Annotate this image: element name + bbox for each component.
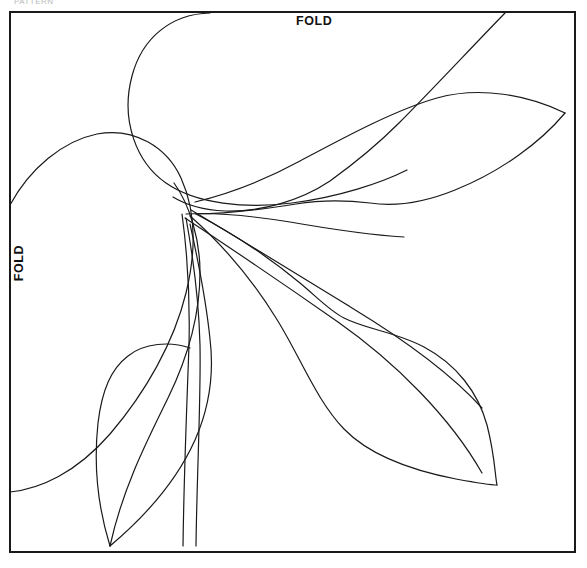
stem-inner-upper xyxy=(186,213,404,237)
pattern-drawing xyxy=(0,0,587,568)
stem-rib-outer xyxy=(182,214,189,546)
lower-right-leaf-lower xyxy=(190,216,497,485)
lower-right-leaf-upper xyxy=(196,214,497,485)
top-petal-outer-sweep xyxy=(173,13,505,211)
right-leaf-upper xyxy=(195,93,565,202)
right-leaf-lower xyxy=(196,113,565,214)
applique-shape-group xyxy=(10,13,565,546)
fold-label-left: FOLD xyxy=(12,238,26,288)
center-leaf-spine-upper xyxy=(191,210,482,408)
lower-left-leaf-right xyxy=(110,224,211,546)
left-inner-petal xyxy=(110,183,200,546)
pattern-sheet: PATTERN FOLD FOLD xyxy=(0,0,587,568)
left-large-petal xyxy=(10,133,193,492)
fold-label-top: FOLD xyxy=(296,14,332,28)
